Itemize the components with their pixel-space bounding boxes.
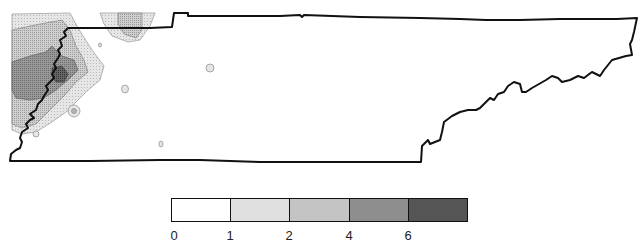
legend-tick-4: 4 — [345, 228, 352, 243]
legend-tick-0: 0 — [170, 228, 177, 243]
legend-bin-0-1 — [172, 199, 231, 221]
color-legend — [171, 198, 468, 222]
legend-tick-2: 2 — [285, 228, 292, 243]
legend-bin-6-plus — [409, 199, 467, 221]
tennessee-contour-map — [0, 0, 643, 190]
legend-bin-2-4 — [290, 199, 349, 221]
legend-tick-1: 1 — [226, 228, 233, 243]
tennessee-outline — [10, 13, 637, 162]
legend-tick-6: 6 — [404, 228, 411, 243]
legend-bin-4-6 — [350, 199, 409, 221]
legend-bin-1-2 — [231, 199, 290, 221]
